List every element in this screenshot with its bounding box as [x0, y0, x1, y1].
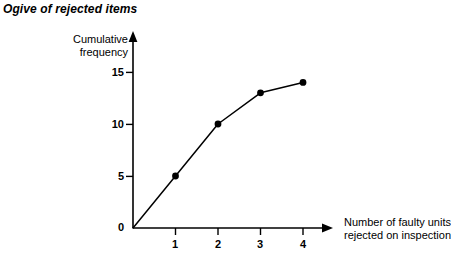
y-axis-arrowhead [129, 31, 138, 42]
x-tick-label-1: 1 [165, 238, 185, 250]
y-tick-label-15: 15 [94, 66, 124, 78]
ogive-data-point-markers [172, 79, 306, 179]
ogive-line [133, 82, 303, 228]
x-axis-title: Number of faulty units rejected on inspe… [344, 216, 451, 242]
data-point-1-5 [172, 173, 179, 180]
data-point-2-10 [215, 121, 222, 128]
y-axis-title-line1: Cumulative [73, 33, 128, 46]
x-tick-label-4: 4 [293, 238, 313, 250]
x-tick-label-2: 2 [208, 238, 228, 250]
origin-label: 0 [104, 221, 124, 233]
y-axis-title: Cumulative frequency [73, 33, 128, 59]
x-axis-title-line1: Number of faulty units [344, 216, 451, 229]
y-tick-label-10: 10 [94, 118, 124, 130]
x-axis-arrowhead [322, 224, 333, 233]
y-axis-title-line2: frequency [73, 46, 128, 59]
y-tick-label-5: 5 [94, 170, 124, 182]
data-point-3-13 [257, 89, 264, 96]
x-axis-title-line2: rejected on inspection [344, 229, 451, 242]
x-tick-label-3: 3 [250, 238, 270, 250]
data-point-4-14 [300, 79, 307, 86]
